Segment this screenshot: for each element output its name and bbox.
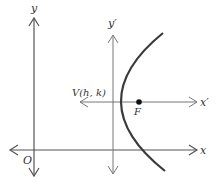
y-prime-axis (108, 35, 118, 174)
x-axis-label: x (200, 144, 207, 157)
y-prime-axis-label: y′ (107, 17, 117, 30)
origin-label: O (23, 154, 32, 167)
vertex-label: V(h, k) (72, 87, 106, 98)
focus-point (136, 99, 142, 105)
x-prime-axis-label: x′ (200, 96, 209, 109)
y-axis-label: y (30, 2, 38, 15)
x-axis (10, 145, 197, 155)
y-axis (29, 18, 39, 176)
parabola-diagram: y y′ x′ x O V(h, k) F (0, 0, 218, 184)
focus-label: F (133, 106, 142, 117)
